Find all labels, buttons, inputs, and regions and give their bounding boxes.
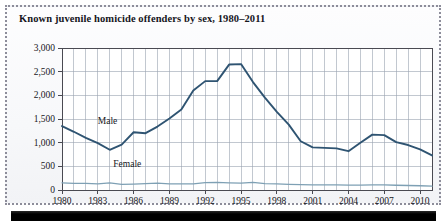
chart-plot-area: 05001,0001,5002,0002,5003,000 1980198319…	[7, 7, 443, 207]
series-annotations: MaleFemale	[7, 7, 443, 207]
bottom-bar-sheen	[11, 211, 436, 214]
series-label-male: Male	[98, 116, 118, 126]
figure-frame: Known juvenile homicide offenders by sex…	[5, 5, 441, 205]
screenshot-root: Known juvenile homicide offenders by sex…	[0, 0, 447, 221]
series-label-female: Female	[113, 159, 141, 169]
bottom-black-bar	[11, 211, 436, 221]
